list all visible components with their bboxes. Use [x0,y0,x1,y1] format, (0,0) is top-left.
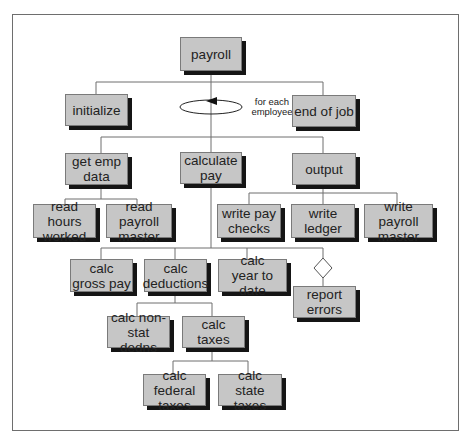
node-label: output [305,162,343,177]
node-calc-federal-taxes[interactable]: calc federal taxes [143,374,206,406]
node-write-pay-checks[interactable]: write pay checks [217,204,281,238]
node-calc-deductions[interactable]: calc deductions [144,259,207,292]
node-calc-state-taxes[interactable]: calc state taxes [218,374,282,406]
node-label: write pay checks [222,206,276,236]
node-calculate-pay[interactable]: calculate pay [180,152,242,184]
node-label: calc state taxes [219,368,281,413]
node-write-ledger[interactable]: write ledger [291,204,355,238]
node-get-emp-data[interactable]: get emp data [65,153,128,185]
node-read-hours-worked[interactable]: read hours worked [33,204,96,238]
node-label: calc deductions [143,261,208,291]
node-read-payroll-master[interactable]: read payroll master [106,204,172,238]
node-initialize[interactable]: initialize [65,94,128,126]
node-label: initialize [72,103,120,118]
node-label: calc federal taxes [144,368,205,413]
node-label: payroll [191,47,231,62]
node-end-of-job[interactable]: end of job [292,95,356,127]
node-label: calc non- stat dedns [108,310,169,355]
node-label: calc gross pay [72,261,131,291]
node-label: calculate pay [184,153,237,183]
node-label: end of job [294,104,353,119]
node-calc-taxes[interactable]: calc taxes [182,316,245,348]
node-label: read payroll master [107,199,171,244]
node-payroll[interactable]: payroll [180,37,242,71]
node-label: calc taxes [197,317,229,347]
node-label: write ledger [304,206,342,236]
node-label: calc year to date [219,253,286,298]
node-calc-gross-pay[interactable]: calc gross pay [70,259,133,292]
node-label: read hours worked [34,199,95,244]
node-calc-non-stat-dedns[interactable]: calc non- stat dedns [107,316,170,348]
node-label: report errors [307,287,342,317]
node-label: write payroll master [365,199,432,244]
node-calc-year-to-date[interactable]: calc year to date [218,259,287,292]
node-report-errors[interactable]: report errors [293,286,356,318]
node-output[interactable]: output [292,153,356,185]
decision-diamond-icon [314,258,332,278]
node-label: get emp data [72,154,121,184]
node-write-payroll-master[interactable]: write payroll master [364,204,433,238]
